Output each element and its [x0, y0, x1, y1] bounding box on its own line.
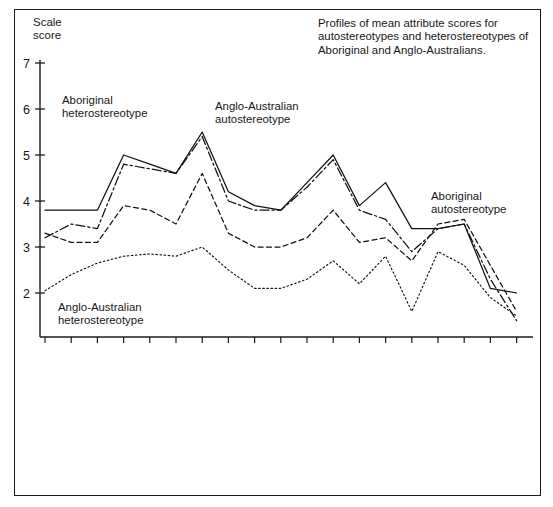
- series-line-aboriginal-heterostereotype: [45, 173, 517, 311]
- series-line-anglo-australian-autostereotype: [45, 132, 517, 293]
- series-line-anglo-australian-heterostereotype: [45, 137, 517, 321]
- series-layer: [45, 132, 517, 321]
- y-tick-label: 7: [23, 57, 30, 71]
- axes-layer: 234567: [23, 57, 533, 344]
- line-chart-plot: 234567: [0, 0, 553, 507]
- figure-container: Scale score Profiles of mean attribute s…: [0, 0, 553, 507]
- series-line-aboriginal-autostereotype: [45, 247, 517, 316]
- y-tick-label: 2: [23, 287, 30, 301]
- y-tick-label: 3: [23, 241, 30, 255]
- y-tick-label: 5: [23, 149, 30, 163]
- y-tick-label: 6: [23, 103, 30, 117]
- y-tick-label: 4: [23, 195, 30, 209]
